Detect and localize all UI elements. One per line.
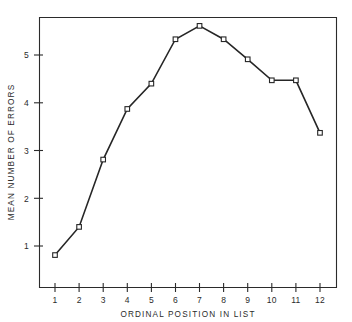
x-tick-label-11: 11 bbox=[291, 295, 300, 305]
data-point-marker-4 bbox=[125, 107, 130, 112]
data-point-marker-12 bbox=[318, 131, 323, 136]
x-axis-tick-labels: 1 2 3 4 5 6 7 8 9 10 11 12 bbox=[53, 295, 325, 305]
y-tick-label-5: 5 bbox=[24, 50, 29, 60]
y-tick-label-3: 3 bbox=[24, 146, 29, 156]
data-point-marker-1 bbox=[53, 253, 58, 258]
x-tick-label-2: 2 bbox=[77, 295, 82, 305]
data-point-marker-3 bbox=[101, 157, 106, 162]
data-point-marker-11 bbox=[294, 78, 299, 83]
data-point-marker-6 bbox=[173, 37, 178, 42]
x-tick-label-12: 12 bbox=[315, 295, 325, 305]
y-axis-ticks bbox=[34, 55, 43, 246]
y-tick-label-1: 1 bbox=[24, 241, 29, 251]
y-tick-label-4: 4 bbox=[24, 98, 29, 108]
serial-position-line-chart: 5 4 3 2 1 1 2 3 4 5 6 bbox=[0, 0, 352, 322]
x-tick-label-9: 9 bbox=[245, 295, 250, 305]
x-axis-title: ORDINAL POSITION IN LIST bbox=[120, 310, 255, 319]
x-tick-label-1: 1 bbox=[53, 295, 58, 305]
figure-container: 5 4 3 2 1 1 2 3 4 5 6 bbox=[0, 0, 352, 322]
data-point-marker-9 bbox=[245, 57, 250, 62]
data-point-marker-7 bbox=[197, 24, 202, 29]
data-series-markers bbox=[53, 24, 323, 258]
data-point-marker-2 bbox=[77, 225, 82, 230]
data-point-marker-5 bbox=[149, 81, 154, 86]
x-tick-label-3: 3 bbox=[101, 295, 106, 305]
axes-group bbox=[40, 17, 338, 288]
data-point-marker-8 bbox=[221, 37, 226, 42]
x-tick-label-5: 5 bbox=[149, 295, 154, 305]
x-tick-label-4: 4 bbox=[125, 295, 130, 305]
x-tick-label-10: 10 bbox=[267, 295, 277, 305]
data-point-marker-10 bbox=[270, 78, 275, 83]
y-axis-tick-labels: 5 4 3 2 1 bbox=[24, 50, 29, 251]
y-tick-label-2: 2 bbox=[24, 194, 29, 204]
data-series-line bbox=[55, 26, 320, 255]
x-tick-label-6: 6 bbox=[173, 295, 178, 305]
x-tick-label-7: 7 bbox=[197, 295, 202, 305]
y-axis-title: MEAN NUMBER OF ERRORS bbox=[7, 84, 16, 221]
x-tick-label-8: 8 bbox=[221, 295, 226, 305]
